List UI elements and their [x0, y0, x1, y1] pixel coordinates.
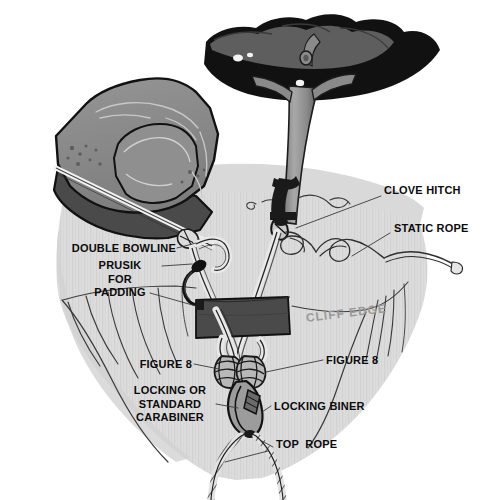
padding-block [196, 297, 290, 338]
label-clove-hitch: CLOVE HITCH [384, 184, 461, 198]
label-figure-8-right: FIGURE 8 [326, 354, 378, 368]
diagram-canvas: CLOVE HITCH STATIC ROPE DOUBLE BOWLINE P… [0, 0, 494, 500]
label-double-bowline: DOUBLE BOWLINE [0, 242, 176, 256]
label-locking-biner: LOCKING BINER [274, 400, 365, 414]
label-locking-or-standard-carabiner: LOCKING OR STANDARD CARABINER [124, 384, 216, 425]
label-figure-8-left: FIGURE 8 [0, 358, 192, 372]
label-top-rope: TOP ROPE [276, 438, 337, 452]
label-prusik-for-padding: PRUSIK FOR PADDING [78, 259, 162, 300]
label-static-rope: STATIC ROPE [394, 222, 469, 236]
